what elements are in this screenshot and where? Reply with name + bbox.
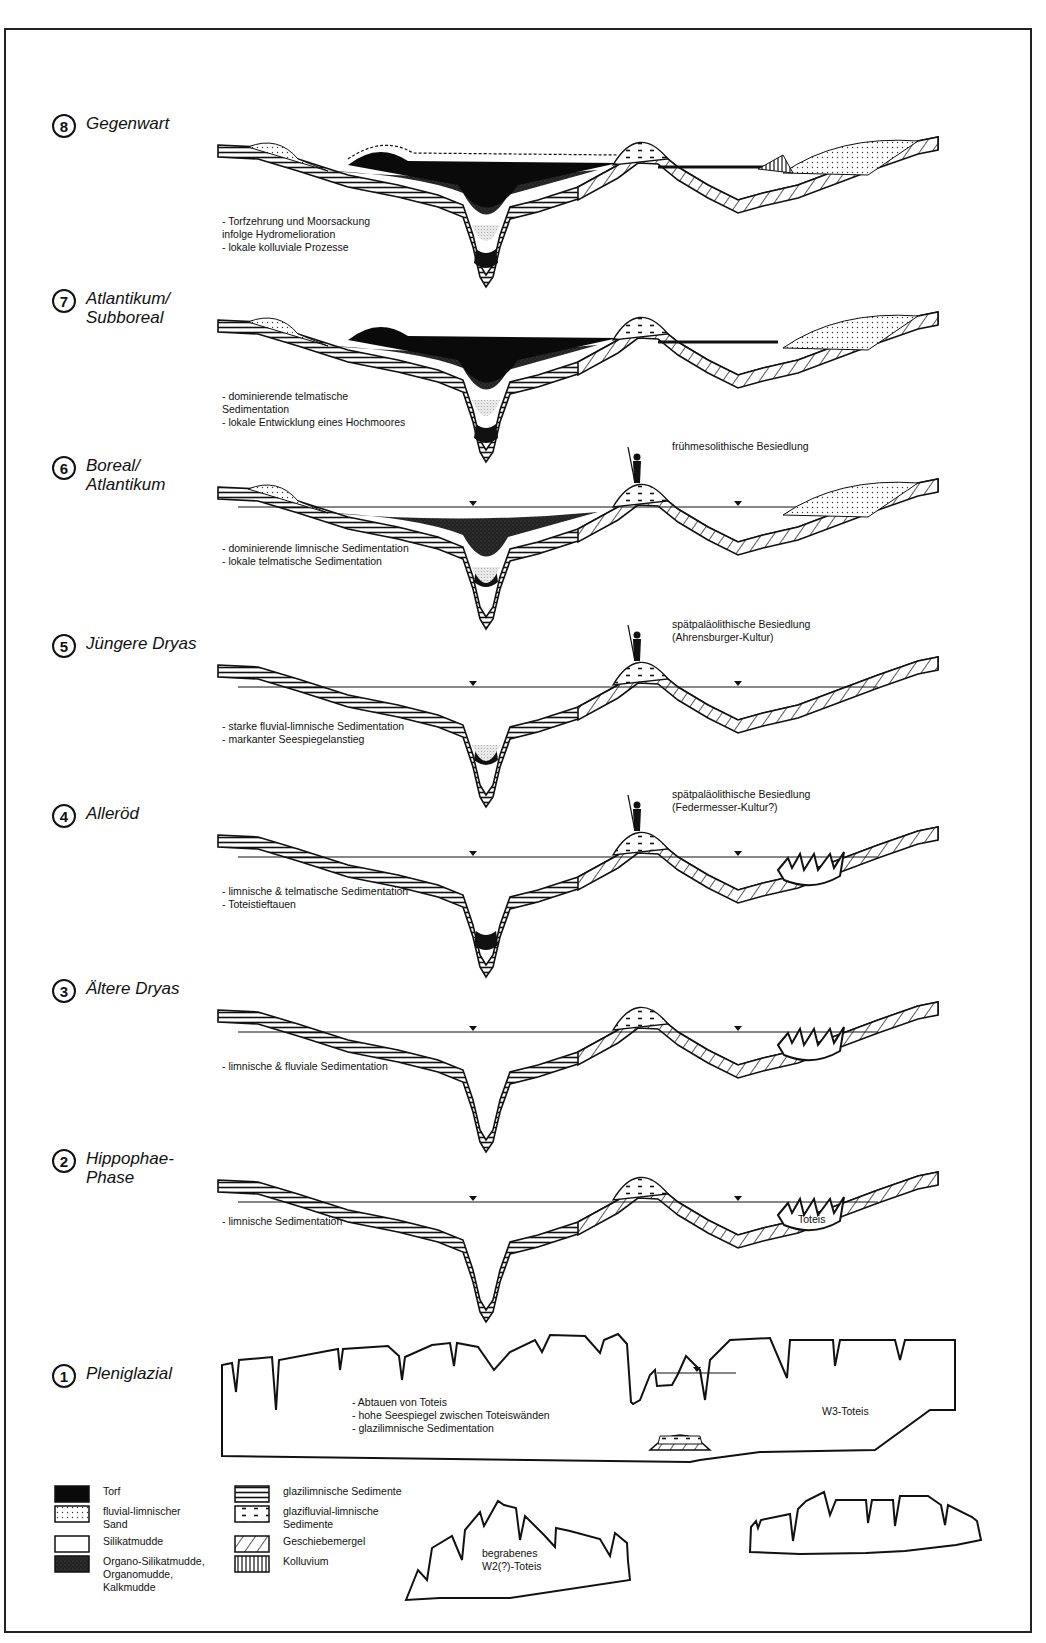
legend-swatch-glazil [235,1486,269,1502]
stage-notes: - dominierende limnische Sedimentation -… [222,542,409,568]
stage-number-badge: 1 [52,1364,76,1388]
stage-number-badge: 5 [52,634,76,658]
stage-number-badge: 2 [52,1149,76,1173]
legend-label-torf: Torf [103,1485,121,1498]
legend-swatch-glazifl [235,1506,269,1522]
legend-label-blank: Silikatmudde [103,1535,163,1548]
human-figure-icon [628,795,641,831]
cross-section-stage-3 [218,1002,938,1152]
stage-notes: - limnische & telmatische Sedimentation … [222,885,408,911]
cross-section-stage-1 [222,1334,955,1462]
stage-label-7: 7Atlantikum/ Subboreal [52,289,170,327]
stage-name: Jüngere Dryas [86,634,197,653]
cross-section-stage-2 [218,1172,938,1322]
stage-number-badge: 6 [52,456,76,480]
cross-section-stage-8 [218,137,938,287]
stage-label-3: 3Ältere Dryas [52,979,180,1003]
stage-number-badge: 3 [52,979,76,1003]
stage-name: Boreal/ Atlantikum [86,456,165,494]
settlement-label: spätpaläolithische Besiedlung (Ahrensbur… [672,618,810,644]
legend-label-glazil: glazilimnische Sedimente [283,1485,401,1498]
legend-label-diag: Geschiebemergel [283,1535,365,1548]
stage-label-8: 8Gegenwart [52,114,169,138]
legend-label-sand: fluvial-limnischer Sand [103,1505,181,1531]
stage-notes: - limnische Sedimentation [222,1215,342,1228]
stage-number-badge: 7 [52,289,76,313]
stage-label-4: 4Alleröd [52,804,139,828]
legend-label-organo: Organo-Silikatmudde, Organomudde, Kalkmu… [103,1555,205,1594]
human-figure-icon [628,625,641,661]
legend-label-glazifl: glazifluvial-limnische Sedimente [283,1505,379,1531]
cross-section-stage-6 [218,447,938,629]
stage-label-6: 6Boreal/ Atlantikum [52,456,165,494]
settlement-label: spätpaläolithische Besiedlung (Federmess… [672,788,810,814]
legend-swatch-diag [235,1536,269,1552]
cross-section-stage-5 [218,625,938,807]
legend-swatch-organo [55,1556,89,1572]
stage-label-5: 5Jüngere Dryas [52,634,197,658]
settlement-label: frühmesolithische Besiedlung [672,440,809,453]
stage-number-badge: 4 [52,804,76,828]
stage-notes: - Abtauen von Toteis - hohe Seespiegel z… [352,1396,550,1435]
stage-name: Hippophae- Phase [86,1149,174,1187]
stage-name: Ältere Dryas [86,979,180,998]
legend-swatch-torf [55,1486,89,1502]
stage-number-badge: 8 [52,114,76,138]
stage-name: Alleröd [86,804,139,823]
buried-ice-blocks [406,1492,981,1600]
stage-notes: - limnische & fluviale Sedimentation [222,1060,388,1073]
legend-swatch-blank [55,1536,89,1552]
buried-ice-label: begrabenes W2(?)-Toteis [482,1547,542,1573]
stage-notes: - starke fluvial-limnische Sedimentation… [222,720,404,746]
stage-label-2: 2Hippophae- Phase [52,1149,174,1187]
legend-swatch-sand [55,1506,89,1522]
stage-name: Pleniglazial [86,1364,172,1383]
stage-name: Atlantikum/ Subboreal [86,289,170,327]
stage-label-1: 1Pleniglazial [52,1364,172,1388]
legend-label-vert: Kolluvium [283,1555,329,1568]
stage-notes: - Torfzehrung und Moorsackung infolge Hy… [222,215,370,254]
human-figure-icon [628,447,641,483]
ice-label: Toteis [798,1213,825,1226]
cross-section-stage-7 [218,312,938,462]
legend-swatch-vert [235,1556,269,1572]
stage-name: Gegenwart [86,114,169,133]
stage-notes: - dominierende telmatische Sedimentation… [222,390,405,429]
ice-label: W3-Toteis [822,1405,869,1418]
